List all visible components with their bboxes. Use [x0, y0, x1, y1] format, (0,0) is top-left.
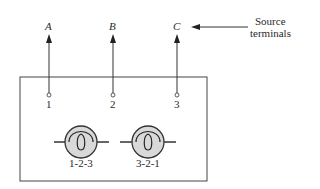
- arrowhead-icon: [110, 34, 116, 43]
- source-label-a: A: [45, 21, 52, 32]
- arrowhead-icon: [174, 34, 180, 43]
- source-label-c: C: [173, 21, 180, 32]
- lamp-3-2-1: [120, 126, 176, 158]
- terminal-lead-b: [110, 34, 116, 97]
- terminal-label-1: 1: [46, 99, 52, 110]
- terminal-lead-a: [46, 34, 52, 97]
- lamp-label-1-2-3: 1-2-3: [69, 158, 93, 169]
- terminal-label-3: 3: [174, 99, 180, 110]
- source-annotation-arrow: [191, 24, 248, 30]
- lamp-label-3-2-1: 3-2-1: [136, 158, 160, 169]
- terminal-lead-c: [174, 34, 180, 97]
- annotation-line-2: terminals: [250, 28, 291, 39]
- annotation-line-1: Source: [255, 16, 286, 27]
- arrowhead-icon: [46, 34, 52, 43]
- terminal-label-2: 2: [110, 99, 116, 110]
- source-label-b: B: [109, 21, 116, 32]
- lamp-1-2-3: [54, 126, 109, 158]
- terminal-1-node: [47, 93, 51, 97]
- arrowhead-icon: [191, 24, 200, 30]
- terminal-2-node: [111, 93, 115, 97]
- terminal-3-node: [175, 93, 179, 97]
